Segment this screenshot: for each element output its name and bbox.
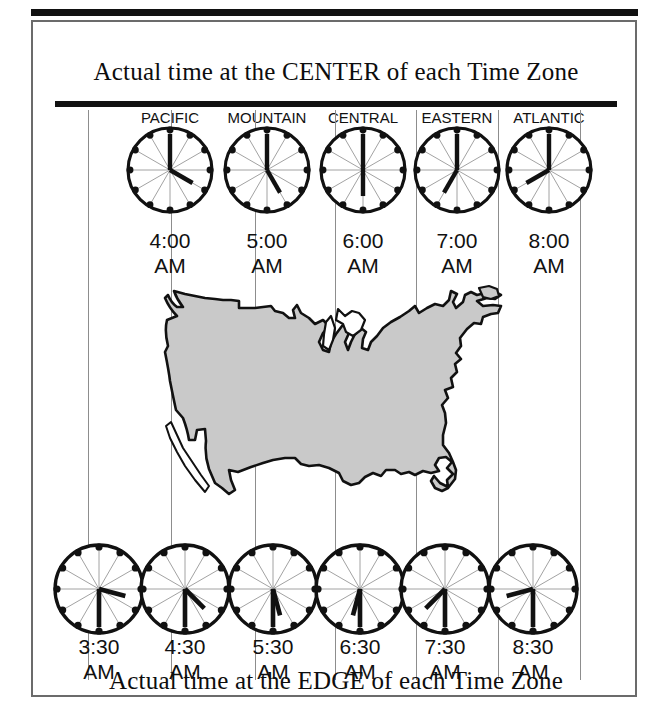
- clock-face-edge-6-30: [312, 541, 408, 637]
- clock-meridiem-value: AM: [247, 253, 288, 278]
- time-caption-center-0: 4:00AM: [150, 228, 191, 278]
- clock-meridiem-value: AM: [343, 253, 384, 278]
- clock-time-value: 8:30: [513, 634, 554, 659]
- clock-time-value: 8:00: [529, 228, 570, 253]
- time-caption-center-2: 6:00AM: [343, 228, 384, 278]
- clock-face-edge-8-30: [485, 541, 581, 637]
- clock-face-center-6-00: [317, 124, 409, 216]
- figure-panel: Actual time at the CENTER of each Time Z…: [31, 20, 637, 697]
- clock-time-value: 3:30: [79, 634, 120, 659]
- clock-face-edge-7-30: [397, 541, 493, 637]
- maine-detail: [479, 286, 499, 299]
- clock-time-value: 4:30: [165, 634, 206, 659]
- clock-time-value: 6:00: [343, 228, 384, 253]
- clock-time-value: 6:30: [340, 634, 381, 659]
- clock-face-edge-5-30: [225, 541, 321, 637]
- clock-face-center-7-00: [411, 124, 503, 216]
- clock-face-edge-4-30: [137, 541, 233, 637]
- time-caption-center-4: 8:00AM: [529, 228, 570, 278]
- time-caption-center-3: 7:00AM: [437, 228, 478, 278]
- title-underline-rule: [55, 101, 617, 107]
- figure-title-edge: Actual time at the EDGE of each Time Zon…: [33, 667, 639, 695]
- clock-face-center-5-00: [221, 124, 313, 216]
- clock-time-value: 5:30: [253, 634, 294, 659]
- clock-time-value: 5:00: [247, 228, 288, 253]
- clock-face-edge-3-30: [51, 541, 147, 637]
- clock-meridiem-value: AM: [150, 253, 191, 278]
- top-decorative-rule: [31, 9, 638, 16]
- clock-face-center-4-00: [124, 124, 216, 216]
- clock-meridiem-value: AM: [529, 253, 570, 278]
- clock-face-center-8-00: [503, 124, 595, 216]
- time-caption-center-1: 5:00AM: [247, 228, 288, 278]
- clock-time-value: 7:30: [425, 634, 466, 659]
- clock-time-value: 4:00: [150, 228, 191, 253]
- clock-time-value: 7:00: [437, 228, 478, 253]
- clock-meridiem-value: AM: [437, 253, 478, 278]
- usa-map: [143, 280, 543, 515]
- figure-title-center: Actual time at the CENTER of each Time Z…: [33, 58, 639, 86]
